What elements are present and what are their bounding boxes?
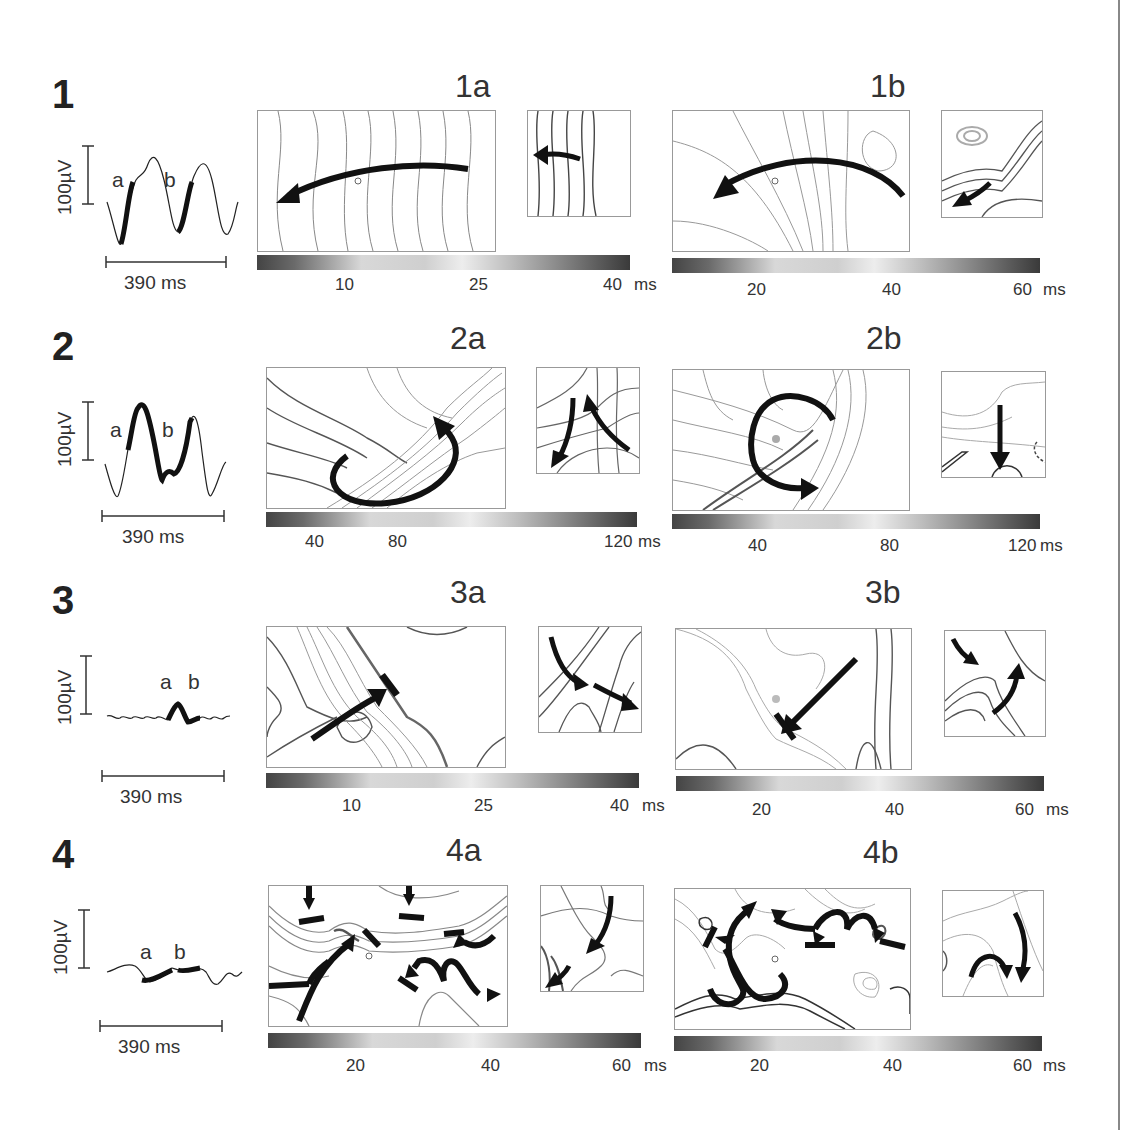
waveform-panel: 100µV a b 390 ms: [40, 140, 250, 340]
activation-map-4a: [268, 885, 508, 1027]
colorbar-unit: ms: [644, 1056, 667, 1076]
waveform-panel: 100µV a b 390 ms: [40, 650, 250, 850]
segment-a-label: a: [160, 670, 172, 694]
duration-label: 390 ms: [118, 1036, 180, 1058]
panel-title-1a: 1a: [455, 68, 491, 105]
row-number: 1: [52, 72, 74, 117]
colorbar-tick: 20: [750, 1056, 769, 1076]
activation-map-3a: [266, 626, 506, 768]
colorbar-tick: 40: [481, 1056, 500, 1076]
duration-label: 390 ms: [124, 272, 186, 294]
colorbar-tick: 40: [748, 536, 767, 556]
duration-label: 390 ms: [120, 786, 182, 808]
colorbar-tick: 80: [880, 536, 899, 556]
activation-map-1b: [672, 110, 910, 252]
colorbar-tick: 25: [474, 796, 493, 816]
segment-a-label: a: [112, 168, 124, 192]
colorbar-tick: 80: [388, 532, 407, 552]
colorbar-unit: ms: [1043, 1056, 1066, 1076]
activation-map-4b-inset: [942, 890, 1044, 997]
figure-border-line: [1118, 0, 1120, 1130]
activation-map-3b-inset: [944, 630, 1046, 737]
colorbar-tick: 10: [342, 796, 361, 816]
colorbar-1b: [672, 258, 1040, 273]
panel-title-4a: 4a: [446, 832, 482, 869]
row-number: 3: [52, 578, 74, 623]
segment-b-label: b: [164, 168, 176, 192]
colorbar-tick: 40: [603, 275, 622, 295]
panel-title-3a: 3a: [450, 574, 486, 611]
segment-a-label: a: [140, 940, 152, 964]
activation-map-4a-inset: [540, 885, 644, 992]
duration-label: 390 ms: [122, 526, 184, 548]
segment-b-label: b: [162, 418, 174, 442]
colorbar-unit: ms: [1040, 536, 1063, 556]
panel-title-2a: 2a: [450, 320, 486, 357]
panel-title-2b: 2b: [866, 320, 902, 357]
colorbar-tick: 25: [469, 275, 488, 295]
colorbar-tick: 60: [1015, 800, 1034, 820]
activation-map-4b: [674, 888, 911, 1030]
row-1: 1 100µV a b 390 ms 1a: [0, 60, 1110, 320]
colorbar-4b: [674, 1036, 1042, 1051]
segment-a-label: a: [110, 418, 122, 442]
panel-title-1b: 1b: [870, 68, 906, 105]
waveform-panel: 100µV a b 390 ms: [40, 392, 250, 592]
colorbar-unit: ms: [634, 275, 657, 295]
activation-map-2a-inset: [536, 367, 640, 474]
colorbar-unit: ms: [642, 796, 665, 816]
colorbar-tick: 40: [885, 800, 904, 820]
colorbar-tick: 60: [612, 1056, 631, 1076]
activation-map-1a: [257, 110, 496, 252]
activation-map-2a: [266, 367, 506, 509]
activation-map-1b-inset: [941, 110, 1043, 218]
activation-map-1a-inset: [527, 110, 631, 217]
colorbar-tick: 20: [747, 280, 766, 300]
panel-title-3b: 3b: [865, 574, 901, 611]
colorbar-tick: 120: [604, 532, 632, 552]
panel-title-4b: 4b: [863, 834, 899, 871]
row-number: 4: [52, 832, 74, 877]
row-2: 2 100µV a b 390 ms 2a: [0, 312, 1110, 572]
colorbar-2a: [266, 512, 637, 527]
colorbar-tick: 40: [883, 1056, 902, 1076]
colorbar-tick: 40: [305, 532, 324, 552]
activation-map-3a-inset: [538, 626, 642, 733]
colorbar-unit: ms: [1046, 800, 1069, 820]
colorbar-unit: ms: [638, 532, 661, 552]
colorbar-tick: 40: [882, 280, 901, 300]
waveform-panel: 100µV a b 390 ms: [40, 900, 250, 1100]
colorbar-4a: [268, 1033, 641, 1048]
colorbar-tick: 120: [1008, 536, 1036, 556]
colorbar-unit: ms: [1043, 280, 1066, 300]
segment-b-label: b: [188, 670, 200, 694]
colorbar-1a: [257, 255, 630, 270]
activation-map-3b: [675, 628, 912, 770]
row-3: 3 100µV a b 390 ms 3a: [0, 568, 1110, 828]
colorbar-tick: 20: [752, 800, 771, 820]
activation-map-2b: [672, 369, 910, 511]
colorbar-2b: [672, 514, 1040, 529]
colorbar-3a: [266, 773, 639, 788]
colorbar-3b: [676, 776, 1044, 791]
colorbar-tick: 60: [1013, 280, 1032, 300]
colorbar-tick: 10: [335, 275, 354, 295]
colorbar-tick: 60: [1013, 1056, 1032, 1076]
colorbar-tick: 20: [346, 1056, 365, 1076]
segment-b-label: b: [174, 940, 186, 964]
colorbar-tick: 40: [610, 796, 629, 816]
row-number: 2: [52, 324, 74, 369]
activation-map-2b-inset: [941, 371, 1046, 478]
row-4: 4 100µV a b 390 ms 4a: [0, 828, 1110, 1088]
